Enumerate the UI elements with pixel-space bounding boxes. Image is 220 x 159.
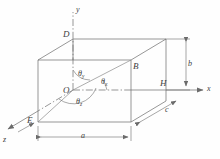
vertex-label-D: D <box>63 30 70 39</box>
dimension-label-b: b <box>188 60 192 68</box>
figure-canvas: y x z O D B H E θy θx θz a b c <box>0 0 220 159</box>
axis-label-z: z <box>3 136 6 144</box>
box-edge-depth-bottom-right <box>131 101 166 122</box>
box-edge-depth-top-right <box>131 39 166 60</box>
theta-x-subscript: x <box>105 81 107 87</box>
axis-line-z-outside <box>8 111 38 129</box>
theta-y-subscript: y <box>82 73 84 79</box>
dimension-label-c: c <box>165 106 169 114</box>
vertex-label-B: B <box>133 62 139 71</box>
diagram-svg <box>0 0 220 159</box>
angle-label-theta-x: θx <box>101 78 107 86</box>
axis-label-x: x <box>207 85 211 93</box>
vertex-label-O: O <box>63 86 70 95</box>
angle-label-theta-z: θz <box>76 98 82 106</box>
dim-line-c <box>140 101 176 122</box>
box-edge-depth-top-left <box>38 39 73 60</box>
vertex-label-E: E <box>27 116 33 125</box>
dimension-label-a: a <box>81 132 85 140</box>
theta-z-subscript: z <box>80 101 82 107</box>
vertex-label-H: H <box>160 79 167 88</box>
angle-label-theta-y: θy <box>78 70 84 78</box>
axis-label-y: y <box>76 6 80 14</box>
